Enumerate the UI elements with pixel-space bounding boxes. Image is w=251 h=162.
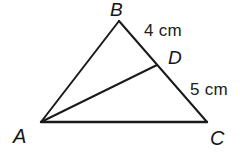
geometry-figure: B D A C 4 cm 5 cm — [0, 0, 251, 162]
vertex-label-b: B — [110, 0, 123, 19]
segment-ad-cevian — [41, 65, 157, 122]
vertex-label-d: D — [168, 48, 182, 67]
segment-ab — [41, 21, 119, 122]
vertex-label-a: A — [13, 126, 26, 146]
measurement-label-dc: 5 cm — [190, 81, 228, 98]
measurement-label-bd: 4 cm — [144, 22, 182, 39]
vertex-label-c: C — [210, 128, 224, 148]
